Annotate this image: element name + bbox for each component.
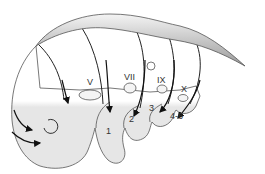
neural-tube bbox=[36, 14, 245, 66]
nerve-label-vii: VII bbox=[124, 73, 135, 82]
embryo-diagram: V VII IX X 1 2 3 4-6 bbox=[0, 0, 265, 174]
arch-label-4-6: 4-6 bbox=[170, 112, 183, 121]
arch-label-1: 1 bbox=[106, 127, 111, 136]
arch-label-3: 3 bbox=[149, 104, 154, 113]
embryo-illustration bbox=[0, 0, 265, 174]
nerve-label-ix: IX bbox=[157, 76, 166, 85]
nerve-label-x: X bbox=[181, 85, 187, 94]
arch-label-2: 2 bbox=[129, 115, 134, 124]
nerve-label-v: V bbox=[87, 78, 93, 87]
